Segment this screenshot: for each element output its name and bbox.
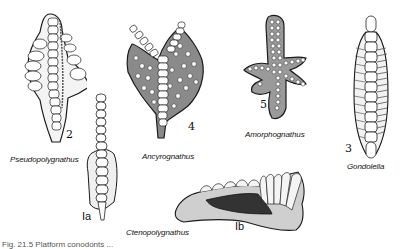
pseudopolygnathus-drawing <box>12 8 87 143</box>
specimen-number-2: 2 <box>66 128 73 141</box>
specimen-ctenopolygnathus-lateral <box>170 170 320 240</box>
gondolella-drawing <box>350 14 392 162</box>
specimen-number-1a: Ia <box>82 210 91 222</box>
specimen-label-gondolella: Gondolella <box>347 162 384 171</box>
specimen-label-ancyrognathus: Ancyrognathus <box>142 152 194 161</box>
figure-caption: Fig. 21.5 Platform conodonts ... <box>2 240 113 249</box>
specimen-label-ctenopolygnathus: Ctenopolygnathus <box>126 228 189 237</box>
specimen-label-amorphognathus: Amorphognathus <box>245 130 305 139</box>
specimen-number-3: 3 <box>345 142 352 155</box>
specimen-number-5: 5 <box>260 98 267 111</box>
specimen-pseudopolygnathus <box>12 8 87 143</box>
specimen-amorphognathus <box>240 12 310 122</box>
specimen-gondolella <box>350 14 392 162</box>
ctenopolygnathus-lateral-drawing <box>170 170 320 240</box>
amorphognathus-drawing <box>240 12 310 122</box>
specimen-number-4: 4 <box>188 120 195 133</box>
specimen-label-pseudopolygnathus: Pseudopolygnathus <box>10 155 79 164</box>
specimen-number-1b: Ib <box>235 220 244 232</box>
